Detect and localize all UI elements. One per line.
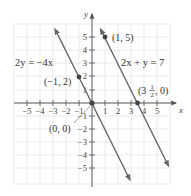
coordinate-plane: −5 −4 −3 −2 −1 1 2 3 4 5 5 4 3 2 1 −1 −2… (0, 0, 191, 196)
x-tick-label: −4 (35, 106, 45, 116)
y-tick-label: 3 (83, 58, 87, 68)
x-tick-labels: −5 −4 −3 −2 −1 1 2 3 4 5 (22, 106, 159, 116)
x-tick-label: −5 (22, 106, 31, 116)
fraction-denominator: 2 (150, 91, 153, 98)
point-3half-0 (135, 101, 140, 106)
point-origin (89, 100, 94, 105)
y-tick-label: 5 (83, 32, 87, 42)
y-tick-label: 2 (83, 71, 87, 81)
x-tick-label: −2 (61, 106, 70, 116)
svg-text:(3: (3 (138, 85, 146, 97)
y-tick-label: −3 (78, 137, 87, 147)
line-2x-plus-y-eq-7 (101, 29, 169, 166)
y-tick-label: −4 (78, 150, 88, 160)
y-tick-label: −2 (78, 124, 87, 134)
y-tick-label: −1 (78, 111, 87, 121)
fraction-numerator: 1 (150, 83, 153, 90)
point-label-1-5: (1, 5) (112, 32, 134, 44)
x-tick-label: 1 (103, 106, 107, 116)
x-tick-label: 3 (129, 106, 133, 116)
point-label-origin: (0, 0) (49, 123, 71, 135)
equation-label-1: 2y = −4x (15, 57, 54, 68)
point-label-3half-0: (3 1 2 , 0) (138, 83, 168, 98)
svg-text:, 0): , 0) (155, 85, 168, 97)
point-label-neg1-2: (−1, 2) (44, 76, 71, 88)
equation-label-2: 2x + y = 7 (121, 57, 164, 68)
x-tick-label: −3 (48, 106, 57, 116)
x-tick-label: 5 (155, 106, 159, 116)
point-1-5 (103, 35, 108, 40)
x-axis-label: x (178, 105, 183, 115)
y-tick-label: −5 (78, 163, 87, 173)
graph-figure: −5 −4 −3 −2 −1 1 2 3 4 5 5 4 3 2 1 −1 −2… (0, 0, 191, 196)
point-neg1-2 (77, 75, 82, 80)
y-axis-label: y (83, 9, 88, 19)
x-tick-label: 2 (116, 106, 120, 116)
